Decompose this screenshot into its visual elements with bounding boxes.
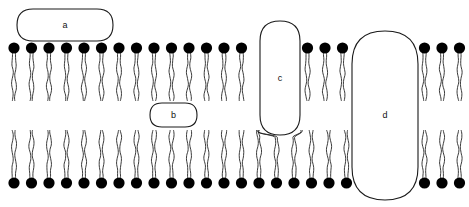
lipid-tail — [221, 130, 223, 178]
lipid-tail — [239, 53, 241, 101]
lipid-tail — [425, 130, 427, 178]
lipid-tail — [322, 53, 324, 101]
lipid-tail — [137, 130, 139, 178]
lipid-tail — [207, 53, 209, 101]
lipid-head — [271, 177, 282, 188]
lipid-head — [323, 177, 334, 188]
lipid-head — [113, 177, 124, 188]
lipid-tail — [204, 130, 206, 178]
lipid-tail — [85, 130, 87, 178]
lipid-head — [78, 42, 89, 53]
lipid-tail — [326, 130, 328, 178]
lipid-tail — [186, 53, 188, 101]
lipid-tail — [155, 130, 157, 178]
lipid-head — [218, 42, 229, 53]
lipid-tail — [172, 53, 174, 101]
lipid-head — [113, 42, 124, 53]
lipid-tail — [99, 130, 101, 178]
lipid-tail — [32, 53, 34, 101]
lipid-head — [96, 177, 107, 188]
lipid-head — [8, 42, 19, 53]
lipid-head — [436, 42, 447, 53]
lipid-tail — [85, 53, 87, 101]
lipid-tail — [425, 53, 427, 101]
lipid-tail — [309, 130, 311, 178]
lipid-tail — [443, 130, 445, 178]
lipid-head — [288, 177, 299, 188]
lipid-tail — [190, 53, 192, 101]
lipid-tail — [347, 130, 349, 178]
lipid-head — [306, 177, 317, 188]
lipid-tail — [172, 130, 174, 178]
lipid-tail — [29, 130, 31, 178]
lipid-head — [454, 177, 465, 188]
lipid-head — [96, 42, 107, 53]
lipid-head — [131, 177, 142, 188]
lipid-tail — [46, 53, 48, 101]
lipid-tail — [460, 53, 462, 101]
label-d: d — [382, 110, 387, 120]
lipid-tail — [67, 130, 69, 178]
lipid-tail — [64, 53, 66, 101]
lipid-tail — [343, 53, 345, 101]
lipid-head — [419, 42, 430, 53]
lipid-tail — [120, 130, 122, 178]
lipid-tail — [81, 53, 83, 101]
lipid-head — [43, 177, 54, 188]
lipid-tail — [242, 53, 244, 101]
lipid-tail — [117, 53, 119, 101]
lipid-tail — [29, 53, 31, 101]
lipid-head — [341, 177, 352, 188]
protein-shapes — [17, 9, 418, 200]
lipid-tail — [50, 53, 52, 101]
lipid-head — [131, 42, 142, 53]
lipid-tail — [443, 53, 445, 101]
lipid-head — [61, 42, 72, 53]
lipid-head — [236, 177, 247, 188]
lipid-tail — [152, 53, 154, 101]
lipid-tail — [137, 53, 139, 101]
lipid-tail — [225, 53, 227, 101]
lipid-tail — [204, 53, 206, 101]
lipid-tail — [32, 130, 34, 178]
lipid-tail — [15, 53, 17, 101]
lipid-head — [436, 177, 447, 188]
membrane-diagram: a b c d — [0, 0, 469, 207]
lipid-tail — [344, 130, 346, 178]
lipid-tail — [102, 53, 104, 101]
lipid-tail — [190, 130, 192, 178]
label-a: a — [62, 20, 67, 30]
lipid-tail — [102, 130, 104, 178]
lipid-head — [454, 42, 465, 53]
lipid-tail — [422, 130, 424, 178]
lipid-tail — [207, 130, 209, 178]
lipid-head — [236, 42, 247, 53]
lipid-head — [8, 177, 19, 188]
lipid-tail — [47, 130, 49, 178]
lipid-tail — [440, 130, 442, 178]
lipid-head — [253, 177, 264, 188]
lipid-head — [183, 177, 194, 188]
lipid-tail — [457, 53, 459, 101]
lipid-tail — [439, 53, 441, 101]
lipid-head — [201, 177, 212, 188]
lipid-head — [201, 42, 212, 53]
lipid-tail — [312, 130, 314, 178]
lipid-tail — [239, 130, 241, 178]
lipid-tail — [50, 130, 52, 178]
lipid-tail — [259, 130, 262, 178]
lipid-head — [26, 42, 37, 53]
lipid-head — [218, 177, 229, 188]
lipid-tail — [330, 130, 332, 178]
lipid-tail — [460, 130, 462, 178]
lipid-tail — [12, 53, 14, 101]
lipid-head — [148, 42, 159, 53]
lipid-tail — [134, 53, 136, 101]
lipid-tail — [326, 53, 328, 101]
lipid-tail — [117, 130, 119, 178]
lipid-tail — [64, 130, 66, 178]
lipid-tail — [221, 53, 223, 101]
lipid-head — [61, 177, 72, 188]
lipid-head — [26, 177, 37, 188]
lipid-tail — [12, 130, 14, 178]
